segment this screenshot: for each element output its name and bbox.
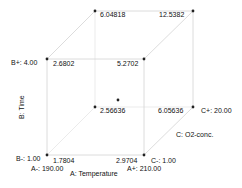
a-low-label: A-: 190.00 [31, 165, 63, 173]
value-back-top-left: 6.04818 [100, 11, 125, 19]
value-back-top-right: 12.5382 [159, 11, 184, 19]
b-high-label: B+: 4.00 [11, 59, 37, 67]
b-low-label: B-: 1.00 [16, 155, 41, 163]
b-axis-title: B: Time [18, 95, 26, 119]
value-back-bottom-right: 6.05636 [158, 107, 183, 115]
value-front-bottom-left: 1.7804 [53, 157, 74, 165]
c-axis-title: C: O2-conc. [176, 131, 213, 139]
center-point [117, 99, 120, 102]
value-front-top-left: 2.6802 [53, 60, 74, 68]
value-front-bottom-right: 2.9704 [116, 157, 137, 165]
a-axis-title: A: Temperature [70, 170, 118, 178]
value-front-top-right: 5.2702 [117, 60, 138, 68]
c-high-label: C+: 20.00 [201, 107, 232, 115]
a-high-label: A+: 210.00 [127, 165, 161, 173]
value-back-bottom-left: 2.56636 [100, 107, 125, 115]
c-low-label: C-: 1.00 [151, 157, 176, 165]
